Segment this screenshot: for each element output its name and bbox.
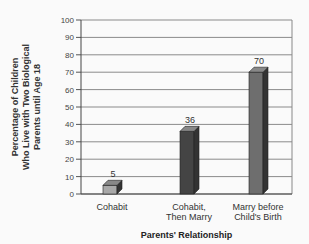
bar-side [263,67,268,194]
x-axis-title: Parents' Relationship [81,230,292,240]
y-tick-label: 70 [65,68,74,77]
y-tick-label: 60 [65,86,74,95]
y-tick-label: 0 [70,190,75,199]
category-label: Child's Birth [234,212,282,222]
data-label: 36 [185,115,195,125]
category-label: Cohabit, [172,202,206,212]
y-tick-label: 20 [65,155,74,164]
category-label: Then Marry [166,212,213,222]
category-label: Cohabit [96,202,128,212]
y-tick-label: 50 [65,103,74,112]
y-tick-label: 40 [65,120,74,129]
bar [180,131,194,194]
y-tick-label: 10 [65,173,74,182]
bar [249,72,263,194]
y-tick-label: 100 [61,16,75,25]
data-label: 5 [110,169,115,179]
bar-chart: 01020304050607080901005Cohabit36Cohabit,… [0,0,309,244]
bar-side [194,126,199,194]
bar [103,185,117,194]
y-tick-label: 90 [65,33,74,42]
y-tick-label: 30 [65,138,74,147]
data-label: 70 [254,56,264,66]
y-tick-label: 80 [65,51,74,60]
category-label: Marry before [232,202,283,212]
